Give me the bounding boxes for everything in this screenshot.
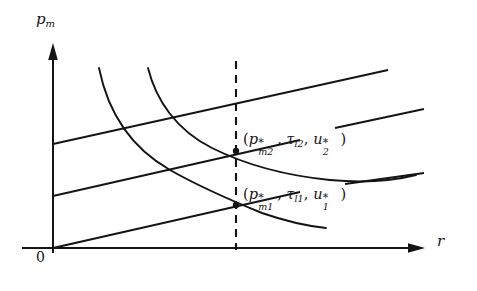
diagram-canvas [0, 0, 477, 291]
p-subscript: m1 [258, 202, 273, 212]
curve-u2-indifference [148, 68, 416, 181]
line-middle-right [335, 109, 424, 128]
origin-label: 0 [36, 250, 45, 264]
comma-2: , [304, 131, 309, 147]
p-base: p [249, 186, 258, 202]
p-base: p [249, 131, 258, 147]
vertical-axis [48, 43, 58, 253]
tau-subscript: l2 [294, 138, 303, 149]
equilibrium-point-1-marker [233, 202, 239, 208]
paren-close: ) [341, 131, 347, 147]
point-label-1: (p*m1, τl1, u*1) [243, 187, 346, 203]
economics-diagram: pm r 0 (p*m2, τl2, u*2) (p*m1, τl1, u*1) [0, 0, 477, 291]
p-subscript: m2 [258, 147, 273, 157]
u-base: u [313, 131, 322, 147]
x-axis-label: r [437, 234, 444, 249]
u-base: u [313, 186, 322, 202]
u-subscript: 1 [323, 202, 329, 212]
tau-subscript: l1 [294, 193, 303, 204]
paren-close: ) [341, 186, 347, 202]
comma-1: , [277, 131, 282, 147]
y-axis-label-sub: m [46, 18, 55, 29]
y-axis-label: pm [36, 12, 55, 29]
equilibrium-point-2-marker [233, 148, 239, 154]
comma-1: , [277, 186, 282, 202]
horizontal-axis [22, 243, 425, 253]
u-subscript: 2 [323, 147, 329, 157]
comma-2: , [304, 186, 309, 202]
y-axis-label-base: p [36, 10, 46, 28]
point-label-2: (p*m2, τl2, u*2) [243, 132, 346, 148]
